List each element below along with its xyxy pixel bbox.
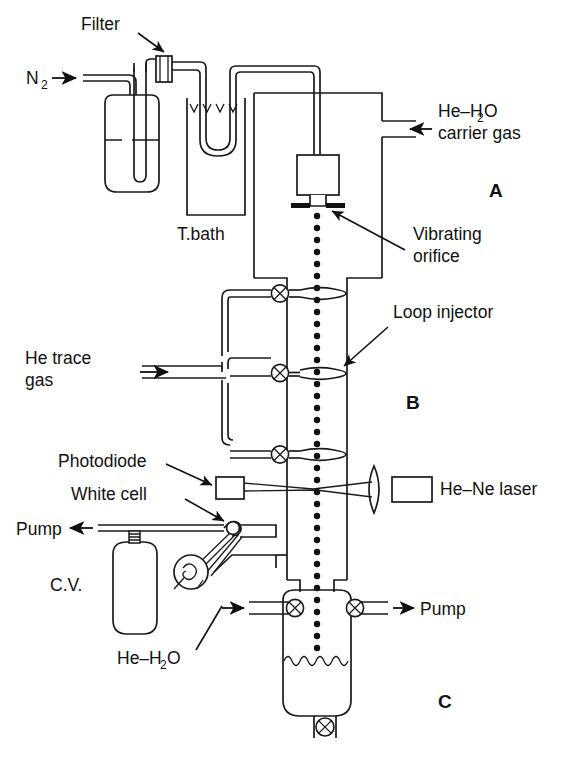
n2-label-subscript: 2 xyxy=(41,78,48,92)
carrier-gas-label-line1-end: O xyxy=(484,101,498,121)
he-h2o-bottom-label: He–H xyxy=(117,648,162,668)
cv-label: C.V. xyxy=(50,575,82,595)
section-label-c: C xyxy=(438,691,452,712)
photodiode-detector xyxy=(216,477,244,499)
vibrating-orifice-label-line1: Vibrating xyxy=(413,224,482,244)
he-trace-gas-label-line2: gas xyxy=(25,370,53,390)
n2-label: N xyxy=(26,68,39,88)
white-cell-mirror-assembly xyxy=(174,555,208,589)
he-trace-gas-label-line1: He trace xyxy=(25,348,91,368)
carrier-gas-label-line2: carrier gas xyxy=(438,123,521,143)
section-label-a: A xyxy=(489,180,503,201)
diagram-canvas: N 2 Filter xyxy=(0,0,567,762)
filter-label: Filter xyxy=(81,14,120,34)
t-bath-label: T.bath xyxy=(177,224,225,244)
he-ne-laser-housing xyxy=(392,477,432,502)
white-cell-label: White cell xyxy=(71,484,147,504)
section-label-b: B xyxy=(406,392,420,413)
filter-cartridge xyxy=(156,56,172,82)
apparatus-schematic: N 2 Filter xyxy=(0,0,567,762)
pump-left-label: Pump xyxy=(16,519,62,539)
vibrating-orifice-label-line2: orifice xyxy=(413,246,460,266)
he-h2o-bottom-label-subscript: 2 xyxy=(160,658,167,672)
pump-right-label: Pump xyxy=(420,599,466,619)
he-h2o-bottom-label-end: O xyxy=(167,648,181,668)
loop-injector-label: Loop injector xyxy=(393,302,493,322)
photodiode-label: Photodiode xyxy=(58,451,147,471)
he-ne-laser-label: He–Ne laser xyxy=(440,479,537,499)
